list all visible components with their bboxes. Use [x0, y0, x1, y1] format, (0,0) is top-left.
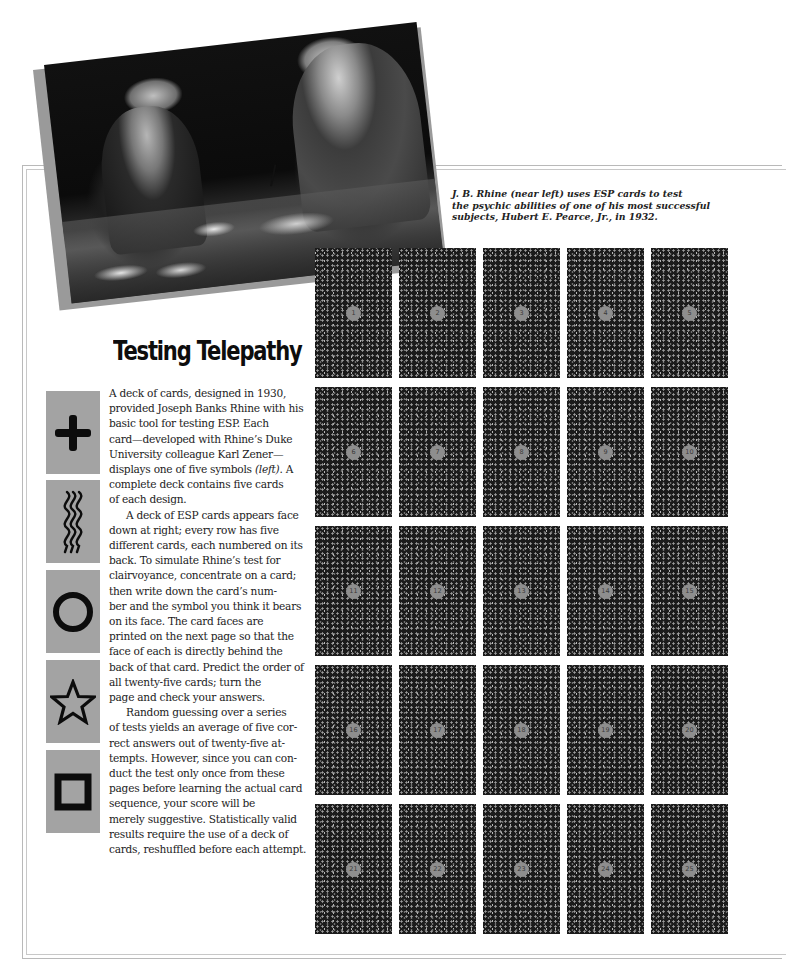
body-line: page and check your answers.	[109, 690, 319, 705]
card-number-badge: 13	[514, 584, 529, 599]
card-number-badge: 7	[430, 445, 445, 460]
body-line: tempts. However, since you can con-	[109, 751, 319, 766]
card-number-badge: 10	[682, 445, 697, 460]
body-line: University colleague Karl Zener—	[109, 447, 319, 462]
esp-card[interactable]: 2	[399, 248, 476, 378]
symbol-card-waves	[46, 480, 100, 563]
card-number-badge: 8	[514, 445, 529, 460]
esp-card[interactable]: 11	[315, 526, 392, 656]
symbol-card-plus	[46, 391, 100, 474]
card-number-badge: 1	[346, 306, 361, 321]
emphasis: (left)	[255, 463, 280, 475]
caption-line: the psychic abilities of one of his most…	[452, 200, 742, 212]
esp-card[interactable]: 19	[567, 665, 644, 795]
card-number-badge: 23	[514, 862, 529, 877]
body-line: pages before learning the actual card	[109, 781, 319, 796]
esp-card[interactable]: 24	[567, 804, 644, 934]
body-line: merely suggestive. Statistically valid	[109, 812, 319, 827]
body-line: face of each is directly behind the	[109, 644, 319, 659]
esp-card[interactable]: 18	[483, 665, 560, 795]
body-line: results require the use of a deck of	[109, 827, 319, 842]
card-number-badge: 18	[514, 723, 529, 738]
body-line: ber and the symbol you think it bears	[109, 599, 319, 614]
body-line: displays one of five symbols (left). A	[109, 462, 319, 477]
body-line: back of that card. Predict the order of	[109, 660, 319, 675]
card-number-badge: 4	[598, 306, 613, 321]
card-number-badge: 17	[430, 723, 445, 738]
card-number-badge: 3	[514, 306, 529, 321]
card-number-badge: 5	[682, 306, 697, 321]
esp-card[interactable]: 20	[651, 665, 728, 795]
card-number-badge: 21	[346, 862, 361, 877]
esp-card[interactable]: 23	[483, 804, 560, 934]
body-line: different cards, each numbered on its	[109, 538, 319, 553]
card-number-badge: 24	[598, 862, 613, 877]
esp-card[interactable]: 10	[651, 387, 728, 517]
card-number-badge: 11	[346, 584, 361, 599]
body-line: printed on the next page so that the	[109, 629, 319, 644]
circle-icon	[51, 590, 95, 634]
symbol-card-star	[46, 660, 100, 743]
esp-card[interactable]: 25	[651, 804, 728, 934]
card-number-badge: 12	[430, 584, 445, 599]
body-line: of each design.	[109, 492, 319, 507]
caption-line: subjects, Hubert E. Pearce, Jr., in 1932…	[452, 211, 742, 223]
symbol-card-circle	[46, 570, 100, 653]
card-number-badge: 20	[682, 723, 697, 738]
card-number-badge: 15	[682, 584, 697, 599]
esp-card[interactable]: 13	[483, 526, 560, 656]
body-line: complete deck contains five cards	[109, 477, 319, 492]
esp-card[interactable]: 9	[567, 387, 644, 517]
article-body: A deck of cards, designed in 1930, provi…	[109, 386, 319, 857]
esp-card[interactable]: 16	[315, 665, 392, 795]
esp-card[interactable]: 15	[651, 526, 728, 656]
wavy-lines-icon	[58, 490, 88, 554]
article-title: Testing Telepathy	[113, 334, 302, 368]
plus-icon	[53, 413, 93, 453]
esp-card[interactable]: 6	[315, 387, 392, 517]
photo-caption: J. B. Rhine (near left) uses ESP cards t…	[452, 188, 742, 223]
star-icon	[50, 679, 96, 725]
body-line: then write down the card’s num-	[109, 584, 319, 599]
esp-card[interactable]: 22	[399, 804, 476, 934]
body-line: card—developed with Rhine’s Duke	[109, 432, 319, 447]
esp-card[interactable]: 5	[651, 248, 728, 378]
card-number-badge: 2	[430, 306, 445, 321]
square-icon	[54, 773, 92, 811]
esp-card[interactable]: 4	[567, 248, 644, 378]
esp-card[interactable]: 1	[315, 248, 392, 378]
esp-card[interactable]: 17	[399, 665, 476, 795]
body-line: duct the test only once from these	[109, 766, 319, 781]
body-line: basic tool for testing ESP. Each	[109, 416, 319, 431]
symbol-card-square	[46, 750, 100, 833]
body-line: Random guessing over a series	[109, 705, 319, 720]
esp-card[interactable]: 3	[483, 248, 560, 378]
body-line: clairvoyance, concentrate on a card;	[109, 568, 319, 583]
card-number-badge: 14	[598, 584, 613, 599]
esp-card[interactable]: 12	[399, 526, 476, 656]
card-number-badge: 9	[598, 445, 613, 460]
body-line: rect answers out of twenty-five at-	[109, 736, 319, 751]
photo-pen	[270, 164, 276, 186]
esp-card[interactable]: 14	[567, 526, 644, 656]
card-number-badge: 16	[346, 723, 361, 738]
body-line: A deck of ESP cards appears face	[109, 508, 319, 523]
esp-card[interactable]: 7	[399, 387, 476, 517]
body-line: on its face. The card faces are	[109, 614, 319, 629]
body-line: all twenty-five cards; turn the	[109, 675, 319, 690]
body-line: of tests yields an average of five cor-	[109, 720, 319, 735]
card-number-badge: 6	[346, 445, 361, 460]
card-number-badge: 25	[682, 862, 697, 877]
body-line: A deck of cards, designed in 1930,	[109, 386, 319, 401]
esp-card[interactable]: 21	[315, 804, 392, 934]
body-line: provided Joseph Banks Rhine with his	[109, 401, 319, 416]
body-line: sequence, your score will be	[109, 796, 319, 811]
caption-line: J. B. Rhine (near left) uses ESP cards t…	[452, 188, 742, 200]
card-number-badge: 22	[430, 862, 445, 877]
esp-card[interactable]: 8	[483, 387, 560, 517]
card-number-badge: 19	[598, 723, 613, 738]
body-line: back. To simulate Rhine’s test for	[109, 553, 319, 568]
body-line: cards, reshuffled before each attempt.	[109, 842, 319, 857]
body-line: down at right; every row has five	[109, 523, 319, 538]
